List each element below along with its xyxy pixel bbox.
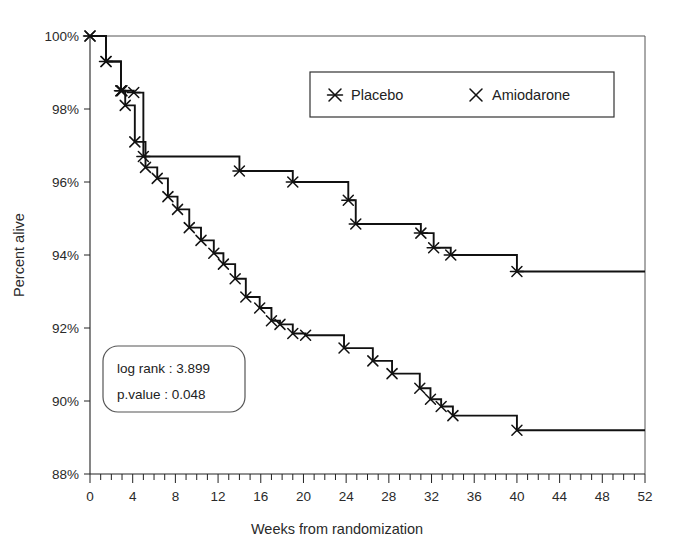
x-tick-label-8: 8 (172, 489, 180, 504)
stats-box (103, 346, 245, 412)
y-axis-title: Percent alive (11, 213, 27, 297)
x-tick-label-24: 24 (339, 489, 355, 504)
y-tick-label-88: 88% (52, 467, 79, 482)
x-tick-label-28: 28 (381, 489, 396, 504)
kaplan-meier-plot: 88%90%92%94%96%98%100% 04812162024283236… (0, 0, 674, 550)
x-tick-label-20: 20 (296, 489, 311, 504)
stats-annotation: log rank : 3.899 p.value : 0.048 (103, 346, 245, 412)
x-tick-label-12: 12 (211, 489, 226, 504)
x-tick-label-16: 16 (253, 489, 268, 504)
y-tick-label-100: 100% (44, 29, 79, 44)
legend-label-amiodarone: Amiodarone (492, 87, 570, 103)
x-tick-label-52: 52 (637, 489, 652, 504)
y-tick-label-92: 92% (52, 321, 79, 336)
y-tick-label-94: 94% (52, 248, 79, 263)
stats-line-p-value: p.value : 0.048 (117, 387, 206, 402)
x-tick-label-0: 0 (86, 489, 94, 504)
x-tick-label-44: 44 (552, 489, 568, 504)
y-tick-label-90: 90% (52, 394, 79, 409)
x-tick-label-4: 4 (129, 489, 137, 504)
x-axis-title: Weeks from randomization (251, 521, 423, 537)
x-tick-label-40: 40 (509, 489, 524, 504)
x-tick-label-36: 36 (467, 489, 482, 504)
y-tick-label-98: 98% (52, 102, 79, 117)
y-tick-label-96: 96% (52, 175, 79, 190)
x-tick-label-48: 48 (595, 489, 610, 504)
x-tick-label-32: 32 (424, 489, 439, 504)
stats-line-log-rank: log rank : 3.899 (117, 361, 210, 376)
survival-chart-figure: 88%90%92%94%96%98%100% 04812162024283236… (0, 0, 674, 550)
chart-legend: Placebo Amiodarone (310, 72, 614, 117)
legend-label-placebo: Placebo (351, 87, 403, 103)
